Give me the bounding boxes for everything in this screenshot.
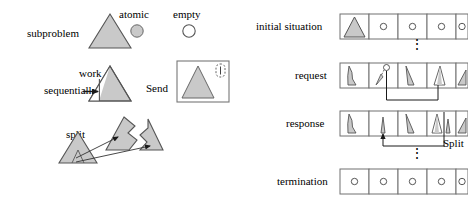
cell-request-circle-icon [384,65,390,71]
legend-atomic-circle-icon [131,25,143,37]
cell-empty-circle-icon [438,23,444,29]
timeline-row-label-response: response [286,117,325,129]
timeline-row-label-termination: termination [277,175,328,187]
cell-empty-circle-icon [380,178,386,184]
algorithm-schematic-figure: subproblem atomic empty work sequentiall… [0,0,468,201]
cell-empty-circle-icon [438,178,444,184]
left-panel-graphics [0,0,468,201]
timeline-row-request [340,63,468,100]
timeline-row-termination [340,169,468,194]
timeline-ellipsis-1: ⋮ [410,39,424,51]
cell-empty-circle-icon [409,23,415,29]
legend-subproblem-triangle-icon [89,14,131,48]
split-product-triangle-2-icon [140,119,163,150]
timeline-row-label-request: request [295,69,327,81]
legend-empty-circle-icon [183,25,195,37]
cell-empty-circle-icon [351,178,357,184]
cell-empty-circle-icon [409,178,415,184]
cell-empty-circle-icon [380,23,386,29]
split-product-triangle-1-icon [106,117,137,150]
cell-empty-circle-icon [459,178,465,184]
cell-empty-circle-icon [459,23,465,29]
timeline-ellipsis-2: ⋮ [410,148,424,160]
timeline-row-label-initial-situation: initial situation [256,20,322,32]
split-annotation-label: Split [443,137,464,149]
timeline-row-initial-situation [340,14,468,39]
